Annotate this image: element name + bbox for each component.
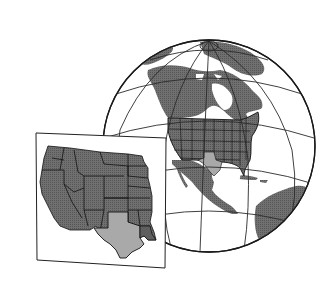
map-illustration [0,0,335,294]
inset-map [36,133,166,268]
